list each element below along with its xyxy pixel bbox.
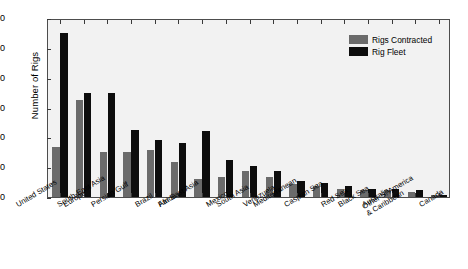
y-tick-mark bbox=[47, 49, 51, 50]
legend-item-rig-fleet: Rig Fleet bbox=[349, 46, 445, 57]
x-axis-labels: United StatesEuropeSouth-East AsiaPersia… bbox=[47, 198, 450, 269]
bar-rig-fleet bbox=[108, 93, 115, 197]
y-tick-mark bbox=[47, 19, 51, 20]
bar-group bbox=[289, 20, 304, 197]
y-tick-mark bbox=[47, 109, 51, 110]
bar-group bbox=[194, 20, 209, 197]
y-tick-mark bbox=[47, 168, 51, 169]
bar-rig-fleet bbox=[155, 140, 162, 197]
x-tick-mark bbox=[368, 20, 369, 24]
bar-group bbox=[147, 20, 162, 197]
bar-rig-fleet bbox=[60, 33, 67, 197]
y-tick-label: 150 bbox=[0, 103, 5, 113]
y-tick-label: 100 bbox=[0, 132, 5, 142]
x-tick-mark bbox=[226, 20, 227, 24]
y-tick-mark bbox=[47, 79, 51, 80]
bar-group bbox=[313, 20, 328, 197]
legend-swatch-rig-fleet bbox=[349, 47, 368, 56]
x-tick-mark bbox=[202, 20, 203, 24]
bar-group bbox=[242, 20, 257, 197]
bar-rigs-contracted bbox=[52, 147, 59, 197]
bar-group bbox=[123, 20, 138, 197]
x-tick-mark bbox=[84, 20, 85, 24]
x-tick-mark bbox=[155, 193, 156, 197]
y-tick-label: 50 bbox=[0, 162, 5, 172]
x-tick-mark bbox=[131, 193, 132, 197]
bar-group bbox=[266, 20, 281, 197]
bar-group bbox=[76, 20, 91, 197]
chart-legend: Rigs Contracted Rig Fleet bbox=[349, 34, 445, 58]
x-tick-mark bbox=[250, 20, 251, 24]
x-tick-mark bbox=[415, 20, 416, 24]
bar-group bbox=[218, 20, 233, 197]
x-tick-mark bbox=[60, 193, 61, 197]
legend-swatch-rigs-contracted bbox=[349, 35, 368, 44]
x-tick-mark bbox=[178, 20, 179, 24]
x-tick-mark bbox=[321, 20, 322, 24]
bar-group bbox=[100, 20, 115, 197]
x-tick-mark bbox=[273, 20, 274, 24]
x-tick-mark bbox=[202, 193, 203, 197]
x-tick-mark bbox=[107, 20, 108, 24]
bar-group bbox=[52, 20, 67, 197]
legend-label-rig-fleet: Rig Fleet bbox=[372, 47, 406, 57]
chart-figure: Number of Rigs 050100150200250300 United… bbox=[0, 0, 468, 269]
y-tick-label: 200 bbox=[0, 73, 5, 83]
x-tick-mark bbox=[321, 193, 322, 197]
y-tick-mark bbox=[47, 138, 51, 139]
x-tick-mark bbox=[392, 20, 393, 24]
bar-rigs-contracted bbox=[147, 150, 154, 197]
x-tick-mark bbox=[344, 20, 345, 24]
bar-group bbox=[171, 20, 186, 197]
y-tick-label: 300 bbox=[0, 13, 5, 23]
y-tick-label: 250 bbox=[0, 43, 5, 53]
x-tick-mark bbox=[155, 20, 156, 24]
bar-rigs-contracted bbox=[76, 100, 83, 197]
legend-label-rigs-contracted: Rigs Contracted bbox=[372, 35, 432, 45]
bar-rig-fleet bbox=[202, 131, 209, 197]
legend-item-rigs-contracted: Rigs Contracted bbox=[349, 34, 445, 45]
y-axis-title: Number of Rigs bbox=[29, 21, 40, 151]
x-tick-mark bbox=[60, 20, 61, 24]
x-tick-mark bbox=[439, 20, 440, 24]
y-tick-label: 0 bbox=[0, 192, 5, 202]
x-tick-mark bbox=[415, 193, 416, 197]
x-tick-mark bbox=[297, 20, 298, 24]
x-tick-mark bbox=[131, 20, 132, 24]
bar-rig-fleet bbox=[416, 190, 423, 197]
bar-rig-fleet bbox=[131, 130, 138, 197]
